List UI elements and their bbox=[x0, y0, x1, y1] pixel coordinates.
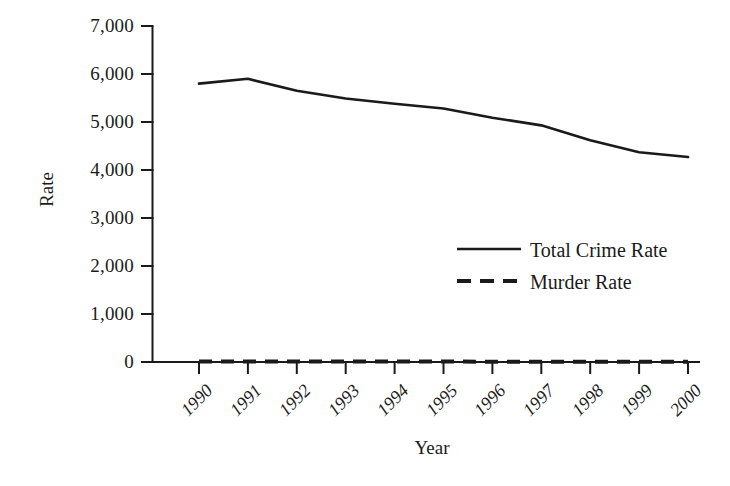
x-tick-marks bbox=[199, 362, 688, 374]
series-total-crime-rate bbox=[199, 79, 688, 157]
y-tick-label: 5,000 bbox=[0, 112, 134, 131]
crime-rate-line-chart: 01,0002,0003,0004,0005,0006,0007,000 199… bbox=[0, 0, 730, 486]
y-tick-label: 6,000 bbox=[0, 64, 134, 83]
y-tick-label: 3,000 bbox=[0, 208, 134, 227]
legend-label-total-crime-rate: Total Crime Rate bbox=[530, 240, 667, 260]
y-axis-title: Rate bbox=[37, 160, 56, 220]
y-tick-label: 7,000 bbox=[0, 16, 134, 35]
y-tick-label: 2,000 bbox=[0, 256, 134, 275]
y-tick-label: 1,000 bbox=[0, 304, 134, 323]
y-tick-label: 4,000 bbox=[0, 160, 134, 179]
y-tick-label: 0 bbox=[0, 352, 134, 371]
x-axis-title: Year bbox=[382, 438, 482, 457]
legend-label-murder-rate: Murder Rate bbox=[530, 272, 632, 292]
